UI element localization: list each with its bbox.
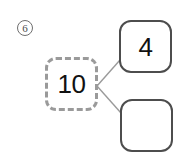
problem-number-badge: 6: [17, 20, 33, 36]
connector-line-to-top-part: [97, 60, 120, 86]
connector-line-to-bottom-part: [97, 86, 121, 113]
number-bond-part-value-1: 4: [139, 34, 153, 60]
number-bond-whole-box[interactable]: 10: [45, 57, 98, 111]
number-bond-part-box-2[interactable]: [120, 99, 173, 152]
number-bond-part-box-1[interactable]: 4: [119, 20, 172, 73]
worksheet-problem-canvas: 6 10 4: [0, 0, 190, 157]
number-bond-whole-value: 10: [58, 71, 86, 97]
